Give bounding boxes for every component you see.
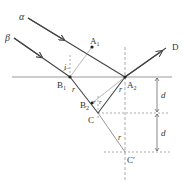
label-b1: B1 [57, 80, 66, 91]
wavefront-a1-b1 [70, 47, 92, 77]
label-c-prime: C′ [127, 155, 135, 165]
label-angle-i: i [64, 63, 66, 72]
label-beta: β [4, 32, 10, 43]
label-d-point: D [172, 42, 179, 52]
label-a1: A1 [90, 36, 100, 47]
label-angle-r-c-prime: r [118, 133, 122, 142]
ray-reflected-arrow [125, 52, 160, 77]
label-a2: A2 [127, 80, 137, 91]
point-a2 [123, 75, 126, 78]
optics-diagram: α β A1 A2 B1 B2 C C′ D i r r r r r d d [0, 0, 184, 192]
label-b2: B2 [80, 100, 89, 111]
ray-beta-arrow [14, 38, 40, 56]
label-d-lower: d [161, 128, 166, 138]
label-d-upper: d [161, 90, 166, 100]
label-angle-r-a2: r [119, 85, 123, 94]
label-angle-r-b2-right: r [99, 98, 102, 106]
label-alpha: α [19, 11, 25, 22]
ray-alpha-arrow [28, 18, 62, 39]
label-angle-r-b2-left: r [93, 98, 96, 106]
label-c: C [88, 115, 94, 125]
point-b1 [68, 75, 71, 78]
label-angle-r-b1: r [72, 85, 76, 94]
